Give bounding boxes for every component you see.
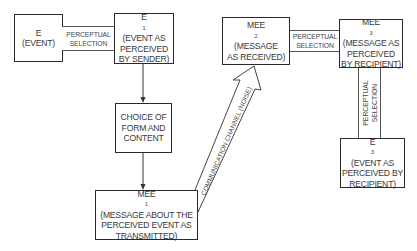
e3-symbol: E3 xyxy=(370,137,376,158)
channel-label-line: PERCEPTUAL xyxy=(361,80,370,125)
channel-label-line: SELECTION xyxy=(296,41,334,50)
box-text-line: TRANSMITTED) xyxy=(116,231,178,242)
choice-of-form-box: CHOICE OF FORM AND CONTENT xyxy=(115,103,172,153)
box-text-line: (MESSAGE ABOUT THE xyxy=(100,210,193,221)
message-transmitted-box: MEE1 (MESSAGE ABOUT THE PERCEIVED EVENT … xyxy=(95,190,198,240)
event-perceived-by-recipient-box: E3 (EVENT AS PERCEIVED BY RECIPIENT) xyxy=(340,138,405,188)
perceptual-selection-channel-1: PERCEPTUAL SELECTION xyxy=(62,26,115,51)
box-text-line: PERCEIVED xyxy=(120,44,168,55)
event-symbol: E xyxy=(36,28,42,39)
box-text-line: (MESSAGE AS xyxy=(343,38,400,49)
e1-symbol: E1 xyxy=(141,12,147,33)
box-text-line: PERCEIVED BY xyxy=(342,168,403,179)
communication-channel-label: COMMUNICATION CHANNEL (NOISE) xyxy=(199,86,253,197)
perceptual-selection-channel-2: PERCEPTUAL SELECTION xyxy=(290,30,340,52)
message-received-box: MEE2 (MESSAGE AS RECEIVED) xyxy=(222,17,290,65)
channel-label: PERCEPTUAL SELECTION xyxy=(361,80,379,125)
perceptual-selection-channel-3: PERCEPTUAL SELECTION xyxy=(358,68,381,138)
event-box: E (EVENT) xyxy=(14,14,63,62)
box-text-line: CONTENT xyxy=(123,133,163,144)
mee2-symbol: MEE2 xyxy=(247,20,265,41)
event-label: (EVENT) xyxy=(22,38,55,49)
channel-label-line: SELECTION xyxy=(370,80,379,125)
box-text-line: (MESSAGE xyxy=(234,41,278,52)
channel-label-line: SELECTION xyxy=(70,39,108,48)
box-text-line: PERCEIVED EVENT AS xyxy=(101,220,191,231)
box-text-line: (EVENT AS xyxy=(351,158,394,169)
channel-label-line: PERCEPTUAL xyxy=(66,30,110,39)
box-text-line: CHOICE OF xyxy=(121,112,167,123)
event-perceived-by-sender-box: E1 (EVENT AS PERCEIVED BY SENDER) xyxy=(114,13,174,64)
mee1-symbol: MEE1 xyxy=(137,189,155,210)
box-text-line: RECIPIENT) xyxy=(349,179,396,190)
box-text-line: (EVENT AS xyxy=(123,33,166,44)
box-text-line: FORM AND xyxy=(122,123,166,134)
box-text-line: BY SENDER) xyxy=(119,54,169,65)
box-text-line: PERCEIVED xyxy=(347,49,395,60)
channel-label-line: PERCEPTUAL xyxy=(293,32,337,41)
mee3-symbol: MEE3 xyxy=(362,17,380,38)
box-text-line: AS RECEIVED) xyxy=(227,52,285,63)
message-perceived-by-recipient-box: MEE3 (MESSAGE AS PERCEIVED BY RECIPIENT) xyxy=(339,19,403,68)
